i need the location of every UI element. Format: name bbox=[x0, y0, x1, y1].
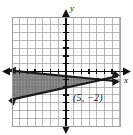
y-axis-up-arrow bbox=[62, 9, 70, 17]
x-axis-label: x bbox=[124, 76, 128, 85]
y-axis-label: y bbox=[70, 4, 74, 13]
x-axis-left-arrow bbox=[2, 68, 10, 76]
y-axis-down-arrow bbox=[62, 126, 70, 134]
coordinate-plane-svg bbox=[0, 0, 133, 135]
coordinate-plane-figure: y x (5, −2) bbox=[0, 0, 133, 135]
vertex-point-label: (5, −2) bbox=[73, 93, 103, 103]
vertex-point-marker bbox=[96, 78, 99, 81]
